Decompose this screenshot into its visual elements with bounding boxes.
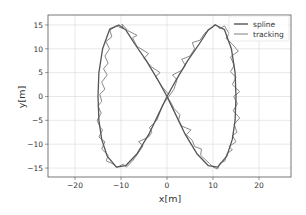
y-axis-label: y[m] xyxy=(16,86,27,108)
x-tick-label: 0 xyxy=(165,181,170,190)
x-tick-label: −10 xyxy=(113,181,129,190)
x-axis-ticks: −20−1001020 xyxy=(67,177,264,190)
legend: spline tracking xyxy=(229,16,289,41)
y-tick-label: −15 xyxy=(27,164,43,173)
x-tick-label: 20 xyxy=(254,181,264,190)
chart: −20−1001020 −15−10−5051015 x[m] y[m] spl… xyxy=(0,0,306,215)
legend-label-spline: spline xyxy=(253,20,276,29)
y-tick-label: −5 xyxy=(32,116,43,125)
y-tick-label: 0 xyxy=(38,92,43,101)
y-axis-ticks: −15−10−5051015 xyxy=(27,21,48,173)
x-tick-label: −20 xyxy=(67,181,83,190)
y-tick-label: 10 xyxy=(33,45,43,54)
x-axis-label: x[m] xyxy=(159,193,181,204)
y-tick-label: −10 xyxy=(27,140,43,149)
x-tick-label: 10 xyxy=(208,181,218,190)
y-tick-label: 5 xyxy=(38,68,43,77)
y-tick-label: 15 xyxy=(33,21,43,30)
legend-label-tracking: tracking xyxy=(253,30,284,39)
